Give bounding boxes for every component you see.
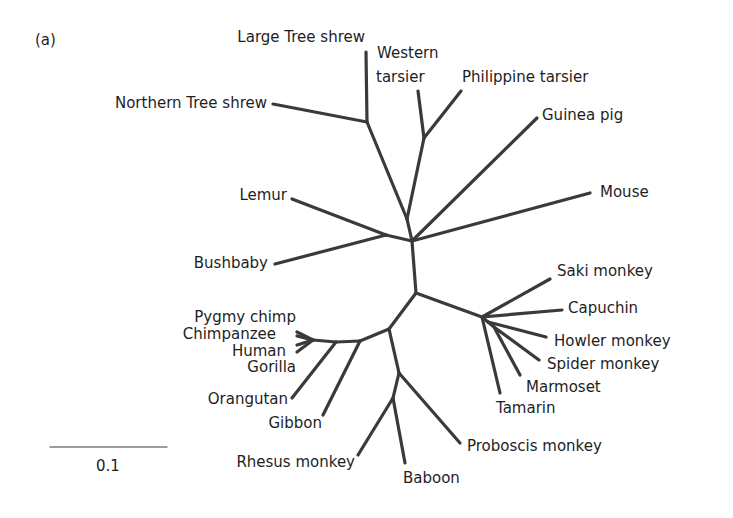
internal-branch bbox=[313, 340, 336, 342]
leaf-branch bbox=[292, 199, 386, 235]
scale-bar: 0.1 bbox=[50, 447, 167, 475]
internal-branch bbox=[386, 235, 412, 241]
leaf-branch bbox=[273, 104, 367, 122]
panel-label: (a) bbox=[35, 31, 56, 49]
leaf-branch bbox=[412, 193, 590, 241]
internal-branch bbox=[393, 373, 399, 398]
internal-branch bbox=[407, 138, 424, 219]
internal-branch bbox=[389, 329, 399, 373]
taxon-label: Marmoset bbox=[526, 378, 601, 396]
taxon-label: Gibbon bbox=[268, 414, 322, 432]
internal-branch bbox=[416, 293, 482, 317]
taxon-label: Proboscis monkey bbox=[467, 437, 602, 455]
leaf-branch bbox=[275, 235, 386, 264]
phylogenetic-tree: (a) Large Tree shrewNorthern Tree shrewW… bbox=[0, 0, 733, 518]
internal-branch bbox=[360, 329, 389, 341]
taxon-label: Large Tree shrew bbox=[237, 28, 365, 46]
taxon-label: Spider monkey bbox=[547, 355, 660, 373]
taxon-label: tarsier bbox=[376, 68, 425, 86]
taxon-label: Capuchin bbox=[568, 299, 638, 317]
taxon-label: Chimpanzee bbox=[183, 325, 276, 343]
taxon-label: Guinea pig bbox=[542, 106, 623, 124]
leaf-branch bbox=[424, 91, 461, 138]
taxon-label: Saki monkey bbox=[557, 262, 653, 280]
leaf-branch bbox=[494, 327, 520, 375]
internal-branch bbox=[367, 122, 407, 219]
leaf-labels: Large Tree shrewNorthern Tree shrewWeste… bbox=[115, 28, 671, 487]
leaf-branch bbox=[418, 91, 424, 138]
leaf-branch bbox=[358, 398, 393, 455]
taxon-label: Gorilla bbox=[247, 358, 296, 376]
scale-bar-label: 0.1 bbox=[96, 457, 120, 475]
taxon-label: Baboon bbox=[403, 469, 460, 487]
taxon-label: Orangutan bbox=[208, 390, 288, 408]
internal-branch bbox=[336, 341, 360, 342]
taxon-label: Tamarin bbox=[495, 399, 556, 417]
taxon-label: Philippine tarsier bbox=[462, 68, 589, 86]
taxon-label: Mouse bbox=[600, 183, 649, 201]
leaf-branch bbox=[393, 398, 405, 463]
internal-branch bbox=[412, 241, 416, 293]
taxon-label: Pygmy chimp bbox=[194, 308, 296, 326]
taxon-label: Lemur bbox=[239, 186, 287, 204]
taxon-label: Western bbox=[377, 44, 439, 62]
internal-branch bbox=[389, 293, 416, 329]
leaf-branch bbox=[366, 52, 367, 122]
internal-branch bbox=[407, 219, 412, 241]
taxon-label: Rhesus monkey bbox=[236, 453, 355, 471]
taxon-label: Howler monkey bbox=[554, 332, 671, 350]
taxon-label: Bushbaby bbox=[194, 254, 268, 272]
taxon-label: Northern Tree shrew bbox=[115, 94, 267, 112]
leaf-branch bbox=[399, 373, 460, 443]
